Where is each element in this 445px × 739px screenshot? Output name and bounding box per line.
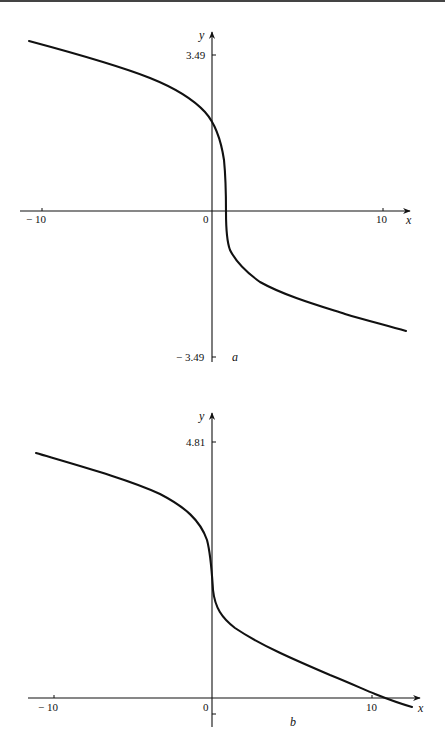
plot-b-panel-label: b [290,715,296,729]
plot-b-tick-label-y-top: 4.81 [186,436,205,448]
plot-b: − 10 0 10 x y 4.81 b [28,409,424,729]
plot-b-tick-label-x-10: 10 [366,701,378,713]
plot-b-tick-label-x-0: 0 [203,701,209,713]
plot-a-tick-label-y-top: 3.49 [186,49,206,61]
plot-b-curve [36,453,412,707]
plot-a-panel-label: a [232,350,238,364]
plot-b-x-axis-label: x [417,701,424,715]
plot-a-y-axis-label: y [198,28,205,42]
plot-b-tick-label-x-neg10: − 10 [38,701,58,713]
figure: − 10 0 10 x y 3.49 − 3.49 a − 10 0 10 x … [0,0,445,739]
plot-a-tick-label-x-neg10: − 10 [26,213,46,225]
plot-b-y-axis-label: y [198,409,205,423]
plot-a: − 10 0 10 x y 3.49 − 3.49 a [20,28,412,364]
plot-a-tick-label-y-bottom: − 3.49 [176,351,205,363]
plot-a-curve [29,41,406,331]
plot-a-tick-label-x-0: 0 [203,213,209,225]
plot-a-tick-label-x-10: 10 [376,213,388,225]
plot-a-x-axis-label: x [405,213,412,227]
